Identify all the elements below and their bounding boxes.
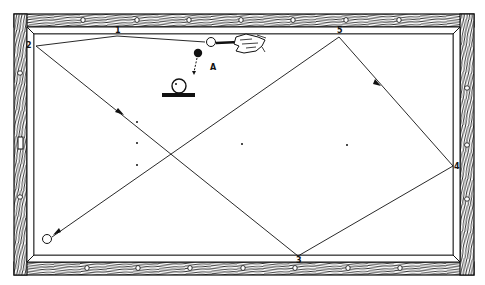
diamond-icon bbox=[187, 18, 191, 23]
diamond-icon bbox=[18, 71, 23, 75]
top-cushion bbox=[27, 27, 460, 34]
diamond-icon bbox=[136, 266, 140, 271]
rail-label-5: 5 bbox=[337, 26, 343, 35]
spot-icon bbox=[136, 142, 138, 144]
diamond-icon bbox=[398, 266, 402, 271]
object-ball bbox=[194, 49, 202, 57]
contact-point-icon bbox=[175, 83, 177, 85]
spot-icon bbox=[241, 143, 243, 145]
rail-label-3: 3 bbox=[296, 256, 302, 265]
inset-label: A bbox=[210, 63, 217, 72]
rail-label-2: 2 bbox=[26, 41, 32, 50]
diamond-icon bbox=[239, 18, 243, 23]
diamond-icon bbox=[241, 266, 245, 271]
cue-ball bbox=[207, 38, 216, 47]
diamond-icon bbox=[465, 143, 470, 147]
diamond-icon bbox=[397, 18, 401, 23]
final-ball-position bbox=[43, 235, 52, 244]
diamond-icon bbox=[85, 266, 89, 271]
spot-icon bbox=[346, 144, 348, 146]
inset-base bbox=[162, 93, 195, 97]
right-cushion bbox=[453, 27, 460, 262]
side-pocket-marker bbox=[18, 137, 23, 149]
diamond-icon bbox=[188, 266, 192, 271]
spot-icon bbox=[136, 164, 138, 166]
cue-ball-face-icon bbox=[172, 79, 186, 93]
spot-icon bbox=[136, 121, 138, 123]
diamond-icon bbox=[465, 86, 470, 90]
diamond-icon bbox=[18, 195, 23, 199]
diamond-icon bbox=[81, 18, 85, 23]
diamond-icon bbox=[291, 18, 295, 23]
diamond-icon bbox=[344, 18, 348, 23]
playing-surface bbox=[34, 34, 453, 255]
rail-label-1: 1 bbox=[115, 26, 121, 35]
bottom-cushion bbox=[27, 255, 460, 262]
diamond-icon bbox=[465, 197, 470, 201]
diamond-icon bbox=[293, 266, 297, 271]
diamond-icon bbox=[135, 18, 139, 23]
billiards-table-diagram: A 1 2 3 4 5 bbox=[0, 0, 485, 285]
left-cushion bbox=[27, 27, 34, 262]
rail-label-4: 4 bbox=[454, 162, 460, 171]
diamond-icon bbox=[346, 266, 350, 271]
